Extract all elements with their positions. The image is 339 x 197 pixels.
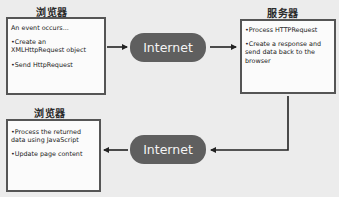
arrow-server-to-internet (211, 96, 288, 150)
connector-arrows (0, 0, 339, 197)
